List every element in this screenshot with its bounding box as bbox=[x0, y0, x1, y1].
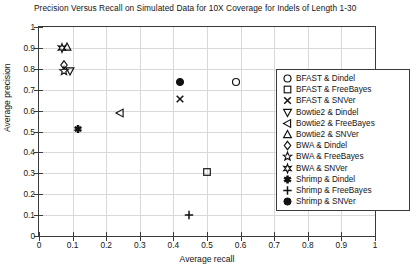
legend-item-label: Shrimp & SNVer bbox=[296, 197, 356, 206]
legend-item[interactable]: BFAST & SNVer bbox=[277, 95, 409, 106]
legend-marker-icon bbox=[281, 196, 294, 207]
y-axis-tick-inner bbox=[39, 48, 43, 49]
data-point[interactable] bbox=[174, 93, 187, 106]
data-point[interactable] bbox=[201, 166, 214, 179]
legend-item-label: BFAST & Dindel bbox=[296, 74, 355, 83]
y-axis-tick-label: 0.1 bbox=[23, 210, 35, 220]
legend-item[interactable]: Bowtie2 & Dindel bbox=[277, 107, 409, 118]
legend-item[interactable]: BWA & Dindel bbox=[277, 140, 409, 151]
x-axis-tick-inner bbox=[341, 232, 342, 236]
legend-item[interactable]: Bowtie2 & FreeBayes bbox=[277, 118, 409, 129]
legend-item[interactable]: BFAST & FreeBayes bbox=[277, 84, 409, 95]
x-axis-tick-label: 0.6 bbox=[235, 240, 247, 250]
legend-item-label: Bowtie2 & FreeBayes bbox=[296, 119, 375, 128]
data-point[interactable] bbox=[174, 76, 187, 89]
chart-title: Precision Versus Recall on Simulated Dat… bbox=[34, 3, 416, 13]
y-axis-tick-label: 0.5 bbox=[23, 127, 35, 137]
x-axis-title: Average recall bbox=[180, 254, 235, 264]
gridline-horizontal bbox=[39, 48, 375, 49]
x-axis-tick-label: 0.8 bbox=[302, 240, 314, 250]
data-point[interactable] bbox=[71, 123, 84, 136]
y-axis-tick-label: 0.2 bbox=[23, 189, 35, 199]
x-axis-tick-inner bbox=[241, 232, 242, 236]
y-axis-tick-label: 0.3 bbox=[23, 168, 35, 178]
y-axis-tick-label: 0.8 bbox=[23, 64, 35, 74]
x-axis-tick-inner bbox=[308, 232, 309, 236]
y-axis-tick-inner bbox=[39, 215, 43, 216]
legend-item-label: BWA & FreeBayes bbox=[296, 152, 364, 161]
x-axis-tick-label: 0.2 bbox=[100, 240, 112, 250]
legend-item-label: Bowtie2 & SNVer bbox=[296, 130, 359, 139]
x-axis-tick-inner bbox=[73, 232, 74, 236]
y-axis-tick-label: 1 bbox=[30, 22, 35, 32]
y-axis-tick-label: 0.9 bbox=[23, 43, 35, 53]
x-axis-tick-label: 0.9 bbox=[336, 240, 348, 250]
legend-item-label: Shrimp & Dindel bbox=[296, 175, 355, 184]
chart-legend: BFAST & DindelBFAST & FreeBayesBFAST & S… bbox=[276, 69, 410, 211]
x-axis-tick-inner bbox=[106, 232, 107, 236]
chart-root: Precision Versus Recall on Simulated Dat… bbox=[0, 0, 416, 274]
legend-item[interactable]: BWA & FreeBayes bbox=[277, 151, 409, 162]
data-point[interactable] bbox=[113, 106, 126, 119]
x-axis-tick-label: 1 bbox=[373, 240, 378, 250]
legend-item-label: BWA & SNVer bbox=[296, 164, 348, 173]
y-axis-tick-inner bbox=[39, 152, 43, 153]
y-axis-tick-inner bbox=[39, 132, 43, 133]
x-axis-tick-inner bbox=[375, 232, 376, 236]
y-axis-tick-label: 0.7 bbox=[23, 85, 35, 95]
x-axis-tick-label: 0.4 bbox=[168, 240, 180, 250]
x-axis-tick-label: 0.7 bbox=[268, 240, 280, 250]
x-axis-tick-inner bbox=[173, 232, 174, 236]
data-point[interactable] bbox=[55, 42, 68, 55]
y-axis-tick-inner bbox=[39, 90, 43, 91]
legend-item[interactable]: Shrimp & FreeBayes bbox=[277, 185, 409, 196]
legend-item-label: BWA & Dindel bbox=[296, 141, 347, 150]
x-axis-tick-label: 0.3 bbox=[134, 240, 146, 250]
y-axis-tick-inner bbox=[39, 69, 43, 70]
y-axis-tick-inner bbox=[39, 194, 43, 195]
y-axis-tick-inner bbox=[39, 173, 43, 174]
data-point[interactable] bbox=[229, 76, 242, 89]
x-axis-tick-inner bbox=[207, 232, 208, 236]
legend-item-label: Shrimp & FreeBayes bbox=[296, 186, 372, 195]
legend-item-label: BFAST & SNVer bbox=[296, 96, 355, 105]
legend-item-label: BFAST & FreeBayes bbox=[296, 85, 371, 94]
y-axis-title: Average precision bbox=[2, 63, 12, 132]
x-axis-tick-inner bbox=[140, 232, 141, 236]
legend-item[interactable]: BFAST & Dindel bbox=[277, 73, 409, 84]
y-axis-tick-inner bbox=[39, 27, 43, 28]
y-axis-tick-inner bbox=[39, 111, 43, 112]
y-axis-tick-label: 0.4 bbox=[23, 147, 35, 157]
x-axis-tick-inner bbox=[274, 232, 275, 236]
x-axis-tick-label: 0.5 bbox=[201, 240, 213, 250]
x-axis-tick-label: 0.1 bbox=[67, 240, 79, 250]
gridline-horizontal bbox=[39, 215, 375, 216]
legend-item[interactable]: Shrimp & Dindel bbox=[277, 174, 409, 185]
y-axis-tick-inner bbox=[39, 236, 43, 237]
x-axis-tick-label: 0 bbox=[37, 240, 42, 250]
data-point[interactable] bbox=[182, 209, 195, 222]
data-point[interactable] bbox=[57, 65, 70, 78]
y-axis-tick-label: 0 bbox=[30, 231, 35, 241]
legend-item[interactable]: Bowtie2 & SNVer bbox=[277, 129, 409, 140]
legend-item[interactable]: BWA & SNVer bbox=[277, 163, 409, 174]
legend-item[interactable]: Shrimp & SNVer bbox=[277, 196, 409, 207]
legend-item-label: Bowtie2 & Dindel bbox=[296, 108, 358, 117]
y-axis-tick-label: 0.6 bbox=[23, 106, 35, 116]
